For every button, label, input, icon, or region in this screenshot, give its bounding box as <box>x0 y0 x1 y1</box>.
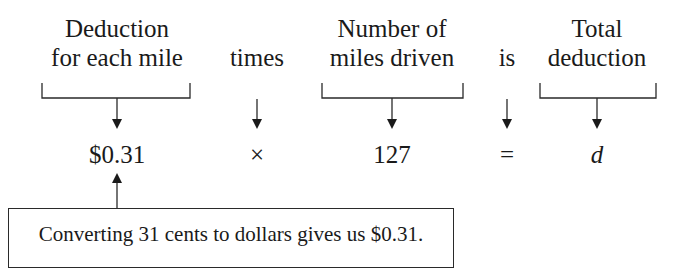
arrow-down-icon <box>502 119 512 129</box>
arrow-down-icon <box>592 119 602 129</box>
value-miles: 127 <box>373 140 411 169</box>
arrow-up-icon <box>112 173 122 183</box>
variable-d: d <box>591 140 604 169</box>
operator-equals: = <box>500 140 514 169</box>
bracket-icon <box>322 83 463 98</box>
value-rate: $0.31 <box>89 140 145 169</box>
bracket-icon <box>42 83 190 98</box>
arrow-down-icon <box>387 119 397 129</box>
arrow-down-icon <box>252 119 262 129</box>
note-box: Converting 31 cents to dollars gives us … <box>8 208 454 268</box>
note-text: Converting 31 cents to dollars gives us … <box>9 222 453 247</box>
operator-times: × <box>250 140 264 169</box>
bracket-icon <box>540 83 656 98</box>
arrow-down-icon <box>112 119 122 129</box>
